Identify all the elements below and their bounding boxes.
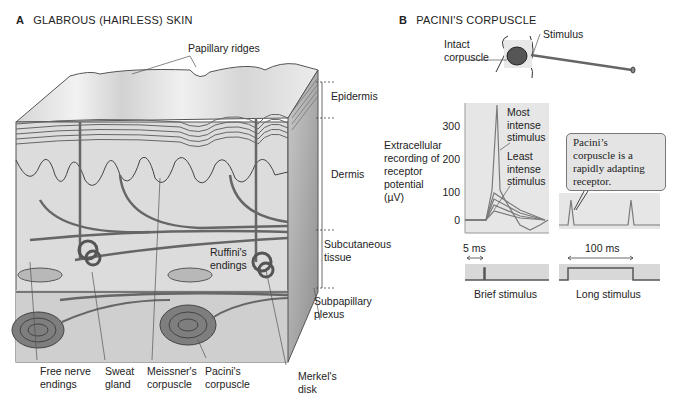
label-brief-stimulus: Brief stimulus xyxy=(474,288,537,301)
label-100ms: 100 ms xyxy=(585,242,619,255)
label-pacinis-corpuscle: Pacini's corpuscle xyxy=(205,365,250,390)
panel-b-title-text: PACINI'S CORPUSCLE xyxy=(416,14,536,26)
label-stimulus: Stimulus xyxy=(543,28,583,41)
y-tick-100: 100 xyxy=(430,186,460,198)
label-least-intense-stimulus: Least intense stimulus xyxy=(507,150,546,188)
label-free-nerve-endings: Free nerve endings xyxy=(40,365,91,390)
y-tick-300: 300 xyxy=(430,120,460,132)
label-merkels-disk: Merkel's disk xyxy=(298,370,337,395)
y-tick-200: 200 xyxy=(430,153,460,165)
label-epidermis: Epidermis xyxy=(331,90,378,103)
label-5ms: 5 ms xyxy=(463,242,486,255)
callout-rapidly-adapting: Pacini’s corpuscle is a rapidly adapting… xyxy=(566,133,666,191)
label-ruffinis-endings: Ruffini's endings xyxy=(210,246,247,271)
label-papillary-ridges: Papillary ridges xyxy=(188,42,260,55)
skin-block-illustration xyxy=(0,0,674,403)
label-meissners-corpuscle: Meissner's corpuscle xyxy=(147,365,197,390)
label-intact-corpuscle: Intact corpuscle xyxy=(444,38,489,63)
label-sweat-gland: Sweat gland xyxy=(105,365,134,390)
label-long-stimulus: Long stimulus xyxy=(576,288,641,301)
panel-b-letter: B xyxy=(399,14,407,26)
label-subcutaneous-tissue: Subcutaneous tissue xyxy=(324,238,391,263)
y-tick-0: 0 xyxy=(430,214,460,226)
label-most-intense-stimulus: Most intense stimulus xyxy=(507,106,546,144)
panel-b-title: BPACINI'S CORPUSCLE xyxy=(399,14,537,26)
label-subpapillary-plexus: Subpapillary plexus xyxy=(314,295,372,320)
label-dermis: Dermis xyxy=(331,168,364,181)
